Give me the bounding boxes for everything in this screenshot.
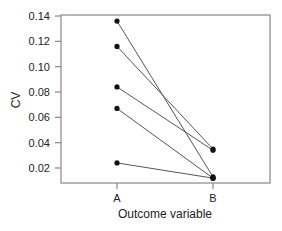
x-tick-label: B [209,192,216,204]
y-tick-label: 0.10 [29,61,50,73]
data-point [114,84,119,89]
y-tick-label: 0.06 [29,111,50,123]
x-axis-title: Outcome variable [118,207,212,221]
series-line [117,163,213,178]
data-point [210,148,215,153]
data-point [114,160,119,165]
x-tick-label: A [113,192,121,204]
y-tick-label: 0.08 [29,86,50,98]
data-point [114,106,119,111]
y-tick-label: 0.02 [29,162,50,174]
series-line [117,21,213,177]
y-tick-label: 0.14 [29,10,50,22]
series-line [117,46,213,149]
y-axis: 0.140.120.100.080.060.040.02 [29,10,61,174]
y-tick-label: 0.12 [29,35,50,47]
series-lines [114,18,215,180]
y-axis-title: CV [9,92,23,109]
chart-canvas: 0.140.120.100.080.060.040.02 AB CV Outco… [0,0,282,231]
data-point [114,44,119,49]
data-point [114,18,119,23]
data-point [210,176,215,181]
y-tick-label: 0.04 [29,137,50,149]
x-axis: AB [113,183,216,204]
